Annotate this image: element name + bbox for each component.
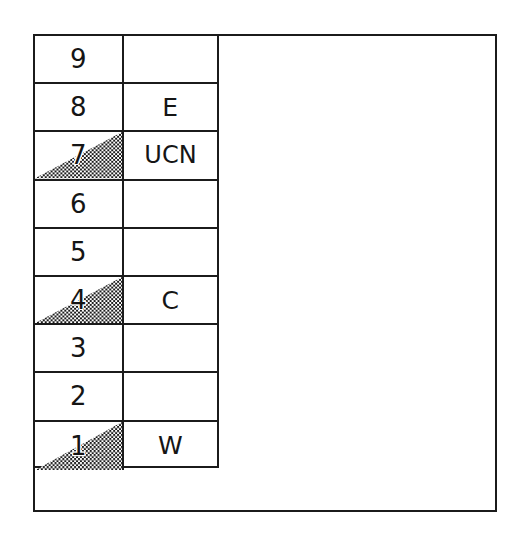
label-cell (124, 229, 217, 275)
level-value: 9 (35, 36, 122, 82)
table-row[interactable]: 7 UCN (35, 132, 217, 180)
table-row[interactable]: 3 (35, 325, 217, 373)
level-cell: 7 (35, 132, 124, 178)
level-cell: 9 (35, 36, 124, 82)
label-value: W (124, 422, 217, 470)
table-row[interactable]: 6 (35, 181, 217, 229)
legend-grid: 9 8 E (33, 34, 219, 468)
level-cell: 8 (35, 84, 124, 130)
level-cell: 5 (35, 229, 124, 275)
level-value: 8 (35, 84, 122, 130)
level-value: 6 (35, 181, 122, 227)
label-cell: C (124, 277, 217, 323)
label-value: E (124, 84, 217, 130)
label-cell (124, 373, 217, 419)
level-value: 7 (35, 132, 122, 178)
label-value: UCN (124, 132, 217, 178)
label-value (124, 229, 217, 275)
label-cell: E (124, 84, 217, 130)
level-cell: 3 (35, 325, 124, 371)
level-cell: 6 (35, 181, 124, 227)
table-row[interactable]: 5 (35, 229, 217, 277)
level-value: 1 (35, 422, 122, 470)
label-cell (124, 325, 217, 371)
level-cell: 1 (35, 422, 124, 470)
level-value: 2 (35, 373, 122, 419)
label-cell (124, 36, 217, 82)
level-cell: 2 (35, 373, 124, 419)
table-row[interactable]: 2 (35, 373, 217, 421)
label-value (124, 325, 217, 371)
table-row[interactable]: 9 (35, 36, 217, 84)
table-row[interactable]: 4 C (35, 277, 217, 325)
label-value (124, 36, 217, 82)
label-value (124, 181, 217, 227)
table-row[interactable]: 1 W (35, 422, 217, 470)
label-cell: W (124, 422, 217, 470)
level-value: 3 (35, 325, 122, 371)
level-value: 5 (35, 229, 122, 275)
label-cell: UCN (124, 132, 217, 178)
label-value (124, 373, 217, 419)
level-value: 4 (35, 277, 122, 323)
table-row[interactable]: 8 E (35, 84, 217, 132)
level-cell: 4 (35, 277, 124, 323)
label-cell (124, 181, 217, 227)
label-value: C (124, 277, 217, 323)
